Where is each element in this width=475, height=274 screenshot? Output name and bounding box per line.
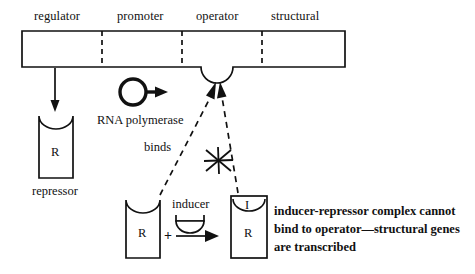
repressor-letter: R xyxy=(51,145,60,159)
blocked-binding-x-icon xyxy=(204,147,233,174)
binds-label: binds xyxy=(144,140,171,154)
segment-label-operator: operator xyxy=(196,9,239,23)
operon-diagram-figure: regulator promoter operator structural R… xyxy=(0,0,475,274)
annotation-line-3: are transcribed xyxy=(274,240,356,254)
complex-inducer-letter: I xyxy=(245,198,249,212)
segment-label-regulator: regulator xyxy=(34,9,81,23)
segment-label-structural: structural xyxy=(271,9,320,23)
complex-repressor-letter: R xyxy=(244,226,253,240)
inducer-tabs xyxy=(176,215,204,221)
repressor-label: repressor xyxy=(32,184,79,198)
plus-sign: + xyxy=(164,228,172,243)
annotation-line-2: bind to operator—structural genes xyxy=(274,222,460,236)
inducer-label: inducer xyxy=(172,197,210,211)
diagram-canvas: regulator promoter operator structural R… xyxy=(0,0,475,274)
rna-polymerase-label: RNA polymerase xyxy=(97,113,184,127)
free-repressor-letter: R xyxy=(138,226,147,240)
segment-label-promoter: promoter xyxy=(117,9,164,23)
annotation-line-1: inducer-repressor complex cannot xyxy=(274,204,456,218)
